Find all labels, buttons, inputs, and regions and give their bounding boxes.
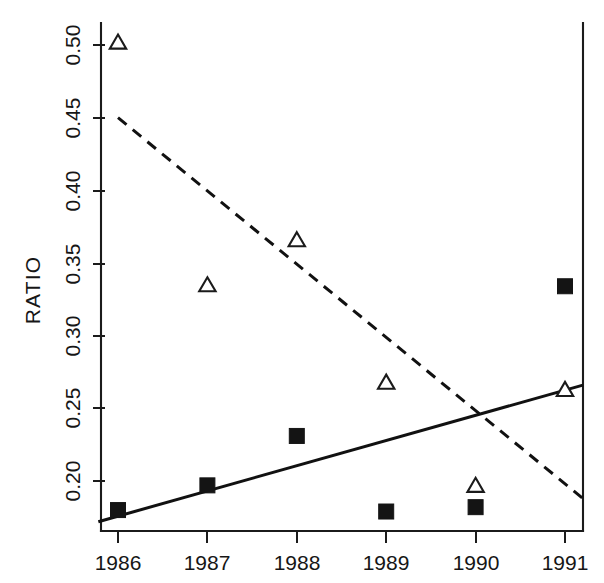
x-tick-label-1989: 1989 (363, 551, 410, 574)
data-point-triangle-1986 (110, 35, 126, 49)
data-point-triangle-1990 (467, 478, 483, 492)
data-point-square-1987 (200, 478, 215, 493)
x-tick-label-1990: 1990 (453, 551, 500, 574)
x-tick-labels: 1986 1987 1988 1989 1990 1991 (95, 551, 589, 574)
data-point-triangle-1988 (289, 232, 305, 246)
y-tick-label-0-35: 0.35 (61, 244, 84, 285)
chart-figure: RATIO 0.50 0.45 0.40 0.35 0.30 0.25 0.20 (0, 0, 604, 583)
data-point-square-1988 (289, 428, 304, 443)
data-point-square-1986 (111, 503, 126, 518)
x-axis-ticks (118, 531, 565, 543)
x-tick-label-1986: 1986 (95, 551, 142, 574)
dashed-declining-trend (118, 118, 583, 499)
y-tick-label-0-50: 0.50 (61, 25, 84, 66)
x-tick-label-1987: 1987 (184, 551, 231, 574)
data-point-triangle-1987 (199, 277, 215, 291)
y-tick-label-0-25: 0.25 (61, 388, 84, 429)
data-markers-layer (110, 35, 573, 519)
data-point-triangle-1989 (378, 375, 394, 389)
scatter-plot-svg: RATIO 0.50 0.45 0.40 0.35 0.30 0.25 0.20 (0, 0, 604, 583)
y-tick-label-0-30: 0.30 (61, 316, 84, 357)
y-tick-label-0-40: 0.40 (61, 171, 84, 212)
data-point-square-1989 (379, 504, 394, 519)
y-tick-labels: 0.50 0.45 0.40 0.35 0.30 0.25 0.20 (61, 25, 84, 502)
y-tick-label-0-20: 0.20 (61, 461, 84, 502)
y-axis-ticks (93, 45, 105, 481)
y-tick-label-0-45: 0.45 (61, 98, 84, 139)
data-point-square-1991 (558, 279, 573, 294)
trend-lines-layer (98, 118, 583, 522)
solid-rising-trend (98, 385, 583, 522)
data-point-square-1990 (468, 500, 483, 515)
x-tick-label-1991: 1991 (542, 551, 589, 574)
x-tick-label-1988: 1988 (274, 551, 321, 574)
y-axis-title: RATIO (21, 256, 44, 325)
